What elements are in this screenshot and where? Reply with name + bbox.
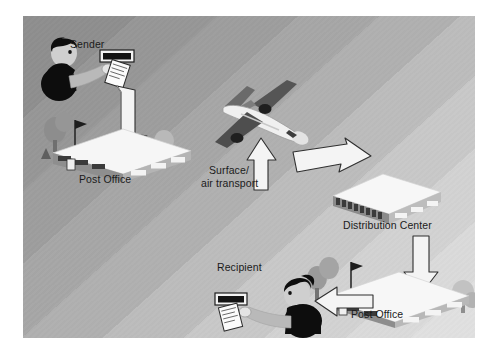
recipient-label: Recipient — [217, 261, 262, 274]
illustration-frame: Post Office — [0, 0, 498, 355]
transport-label-line2: air transport — [201, 177, 258, 190]
post-office-origin-label: Post Office — [79, 173, 131, 186]
tree-icon — [44, 112, 73, 152]
post-office-origin-building — [31, 104, 199, 182]
recipient-envelope-and-slot — [211, 291, 259, 337]
diagram-canvas: Post Office — [23, 16, 475, 338]
sender-label: Sender — [70, 38, 104, 51]
distribution-center-label: Distribution Center — [343, 219, 432, 232]
transport-label-line1: Surface/ — [209, 164, 249, 177]
